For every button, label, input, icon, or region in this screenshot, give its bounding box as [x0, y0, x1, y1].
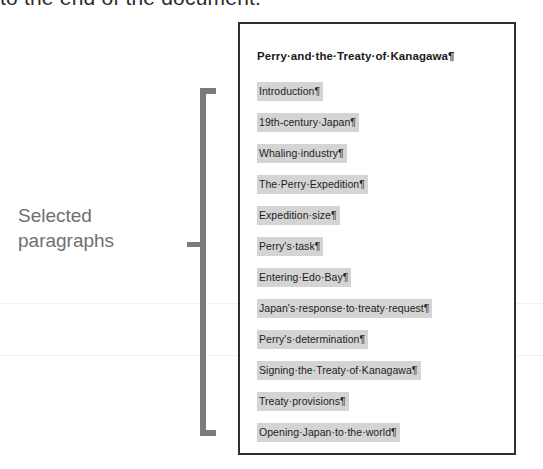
paragraph-text-highlighted[interactable]: The·Perry·Expedition¶ — [257, 175, 368, 194]
paragraph-row[interactable]: Treaty·provisions¶ — [240, 390, 514, 421]
paragraph-row[interactable]: Entering·Edo·Bay¶ — [240, 266, 514, 297]
bracket-arm-top — [200, 88, 216, 94]
paragraph-text-highlighted[interactable]: Opening·Japan·to·the·world¶ — [257, 423, 400, 442]
paragraph-row[interactable]: Perry's·determination¶ — [240, 328, 514, 359]
bracket-spine — [200, 88, 206, 436]
document-title: Perry·and·the·Treaty·of·Kanagawa¶ — [257, 50, 455, 62]
truncated-heading-text: to the end of the document. — [0, 0, 340, 12]
paragraph-text-highlighted[interactable]: Entering·Edo·Bay¶ — [257, 268, 351, 287]
paragraph-text-highlighted[interactable]: Perry's·task¶ — [257, 237, 323, 256]
paragraph-row[interactable]: Signing·the·Treaty·of·Kanagawa¶ — [240, 359, 514, 390]
paragraph-text-highlighted[interactable]: Perry's·determination¶ — [257, 330, 368, 349]
paragraph-text-highlighted[interactable]: Whaling·industry¶ — [257, 144, 347, 163]
document-page: Perry·and·the·Treaty·of·Kanagawa¶ Introd… — [240, 24, 514, 453]
paragraph-text-highlighted[interactable]: Japan's·response·to·treaty·request¶ — [257, 299, 432, 318]
paragraph-row[interactable]: The·Perry·Expedition¶ — [240, 173, 514, 204]
paragraph-row[interactable]: Introduction¶ — [240, 80, 514, 111]
paragraph-row[interactable]: Whaling·industry¶ — [240, 142, 514, 173]
paragraph-row[interactable]: Expedition·size¶ — [240, 204, 514, 235]
paragraph-text-highlighted[interactable]: Expedition·size¶ — [257, 206, 340, 225]
bracket-center-tick — [187, 242, 201, 247]
paragraph-text-highlighted[interactable]: Introduction¶ — [257, 82, 323, 101]
paragraph-text-highlighted[interactable]: Treaty·provisions¶ — [257, 392, 349, 411]
selected-paragraphs-caption: Selected paragraphs — [18, 203, 168, 253]
paragraph-text-highlighted[interactable]: 19th-century·Japan¶ — [257, 113, 359, 132]
paragraph-list: Introduction¶19th-century·Japan¶Whaling·… — [240, 80, 514, 452]
paragraph-row[interactable]: Opening·Japan·to·the·world¶ — [240, 421, 514, 452]
selection-bracket — [184, 88, 216, 436]
document-preview-box: Perry·and·the·Treaty·of·Kanagawa¶ Introd… — [238, 22, 516, 455]
paragraph-text-highlighted[interactable]: Signing·the·Treaty·of·Kanagawa¶ — [257, 361, 421, 380]
paragraph-row[interactable]: 19th-century·Japan¶ — [240, 111, 514, 142]
paragraph-row[interactable]: Perry's·task¶ — [240, 235, 514, 266]
paragraph-row[interactable]: Japan's·response·to·treaty·request¶ — [240, 297, 514, 328]
bracket-arm-bottom — [200, 430, 216, 436]
